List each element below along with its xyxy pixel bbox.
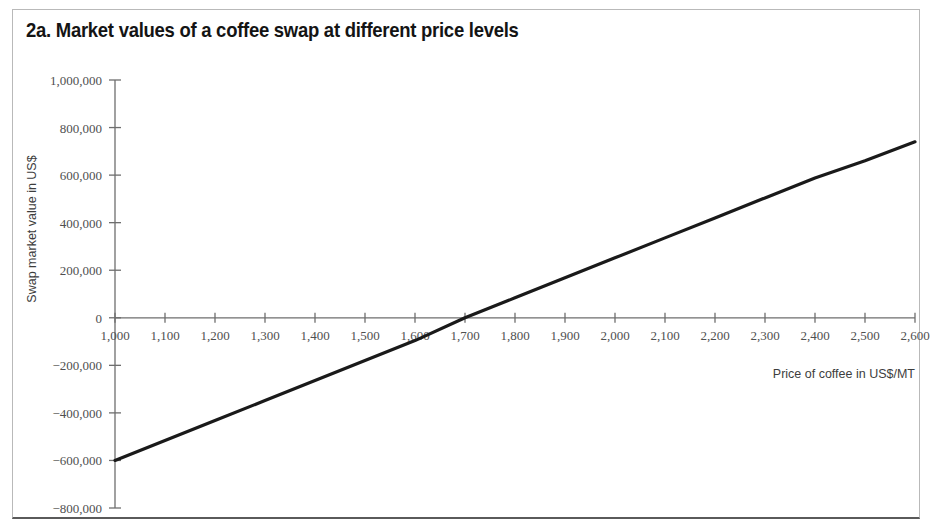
chart-plot: 1,0001,1001,2001,3001,4001,5001,6001,700… [0,0,932,531]
x-axis-tick-label: 1,400 [300,328,329,343]
x-axis-tick-label: 1,300 [250,328,279,343]
y-axis-tick-label: 600,000 [60,168,102,183]
y-axis-tick-label: 200,000 [60,263,102,278]
x-axis-tick-label: 1,800 [500,328,529,343]
y-axis-tick-label: 1,000,000 [50,73,102,88]
x-axis-tick-label: 2,000 [600,328,629,343]
y-axis-tick-label: 400,000 [60,216,102,231]
x-axis-tick-label: 2,500 [850,328,879,343]
y-axis-tick-label: −200,000 [52,358,102,373]
x-axis-tick-label: 1,900 [550,328,579,343]
y-axis-tick-label: −600,000 [52,453,102,468]
data-line-swap-market-value [115,142,915,461]
x-axis-title: Price of coffee in US$/MT [773,367,916,381]
x-axis-tick-label: 1,200 [200,328,229,343]
x-axis-tick-label: 2,400 [800,328,829,343]
x-axis-tick-label: 1,000 [100,328,129,343]
x-axis-tick-label: 1,700 [450,328,479,343]
x-axis-tick-label: 1,100 [150,328,179,343]
y-axis-tick-label: 800,000 [60,121,102,136]
figure-container: 2a. Market values of a coffee swap at di… [0,0,932,531]
x-axis-tick-label: 2,300 [750,328,779,343]
x-axis-tick-label: 1,500 [350,328,379,343]
y-axis-tick-label: −800,000 [52,501,102,516]
y-axis-tick-label: −400,000 [52,406,102,421]
x-axis-tick-label: 2,100 [650,328,679,343]
x-axis-tick-label: 2,600 [900,328,929,343]
y-axis-tick-label: 0 [96,311,103,326]
x-axis-tick-label: 2,200 [700,328,729,343]
y-axis-title: Swap market value in US$ [25,155,39,302]
